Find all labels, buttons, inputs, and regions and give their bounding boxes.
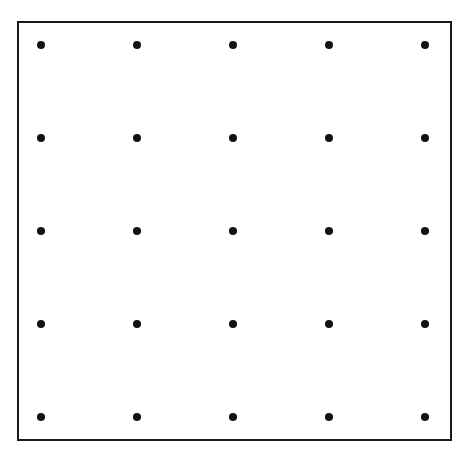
grid-dot (229, 227, 237, 235)
grid-dot (133, 41, 141, 49)
grid-dot (133, 134, 141, 142)
grid-dot (133, 227, 141, 235)
grid-dot (229, 320, 237, 328)
grid-dot (229, 134, 237, 142)
grid-dot (37, 413, 45, 421)
grid-dot (421, 320, 429, 328)
grid-dot (37, 227, 45, 235)
grid-dot (421, 227, 429, 235)
grid-dot (421, 413, 429, 421)
grid-dot (421, 41, 429, 49)
grid-dot (37, 320, 45, 328)
grid-dot (37, 134, 45, 142)
grid-dot (37, 41, 45, 49)
grid-dot (229, 413, 237, 421)
grid-dot (133, 413, 141, 421)
grid-dot (325, 413, 333, 421)
grid-dot (325, 320, 333, 328)
grid-dot (229, 41, 237, 49)
grid-dot (325, 41, 333, 49)
grid-dot (325, 227, 333, 235)
grid-dot (325, 134, 333, 142)
grid-dot (133, 320, 141, 328)
grid-dot (421, 134, 429, 142)
